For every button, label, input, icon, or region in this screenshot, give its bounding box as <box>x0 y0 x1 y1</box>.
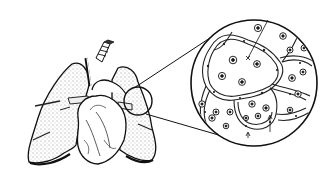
heart <box>77 95 126 164</box>
trachea <box>86 40 114 86</box>
alveoli-magnified-view <box>191 20 317 146</box>
illustration-canvas <box>0 0 331 180</box>
anatomy-illustration <box>0 0 331 180</box>
